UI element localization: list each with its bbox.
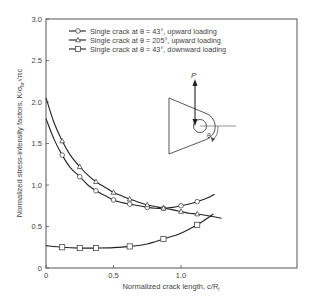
inset-lug-diagram: P θ bbox=[169, 71, 236, 154]
y-tick-label: 2.0 bbox=[32, 98, 42, 107]
square-marker bbox=[93, 245, 98, 250]
x-axis-ticks: 00.51.0 bbox=[44, 265, 186, 280]
curve-square bbox=[46, 214, 213, 248]
x-tick-label: 1.0 bbox=[176, 271, 186, 280]
circle-marker bbox=[179, 203, 184, 208]
stress-intensity-chart: 00.51.01.52.02.53.0 00.51.0 Single crack… bbox=[0, 0, 311, 308]
square-marker bbox=[127, 244, 132, 249]
legend-label: Single crack at θ = 43°, upward loading bbox=[90, 27, 217, 36]
triangle-marker bbox=[60, 138, 65, 142]
x-tick-label: 0.5 bbox=[108, 271, 118, 280]
legend-circle-marker-icon bbox=[76, 29, 81, 34]
legend-label: Single crack at θ = 205°, upward loading bbox=[90, 36, 221, 45]
y-tick-label: 3.0 bbox=[32, 15, 42, 24]
triangle-marker bbox=[94, 179, 99, 183]
circle-marker bbox=[195, 199, 200, 204]
circle-marker bbox=[94, 189, 99, 194]
angle-label: θ bbox=[207, 132, 211, 139]
load-label: P bbox=[191, 71, 197, 80]
load-arrow-up-icon bbox=[193, 79, 198, 86]
y-tick-label: 2.5 bbox=[32, 56, 42, 65]
circle-marker bbox=[127, 202, 132, 207]
square-marker bbox=[77, 245, 82, 250]
y-tick-label: 1.5 bbox=[32, 139, 42, 148]
square-marker bbox=[60, 245, 65, 250]
x-tick-label: 0 bbox=[44, 271, 48, 280]
y-tick-label: 1.0 bbox=[32, 181, 42, 190]
square-marker bbox=[195, 222, 200, 227]
x-axis-label: Normalized crack length, c/Ri bbox=[122, 282, 219, 292]
square-marker bbox=[161, 236, 166, 241]
circle-marker bbox=[60, 153, 65, 158]
chart-figure: 00.51.01.52.02.53.0 00.51.0 Single crack… bbox=[0, 0, 311, 308]
circle-marker bbox=[77, 174, 82, 179]
circle-marker bbox=[111, 198, 116, 203]
angle-arrow-icon bbox=[211, 137, 215, 142]
y-axis-label: Normalized stress-intensity factors, K/σ… bbox=[15, 69, 25, 218]
y-tick-label: 0.5 bbox=[32, 222, 42, 231]
legend-square-marker-icon bbox=[75, 46, 80, 51]
legend: Single crack at θ = 43°, upward loadingS… bbox=[69, 27, 226, 54]
y-tick-label: 0 bbox=[38, 264, 42, 273]
legend-label: Single crack at θ = 43°, downward loadin… bbox=[90, 45, 226, 54]
